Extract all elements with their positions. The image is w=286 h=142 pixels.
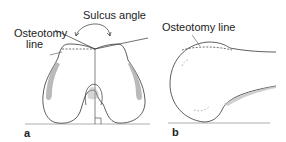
osteotomy-line-label-a-line2: line [26, 39, 43, 50]
osteotomy-line-label-b: Osteotomy line [162, 22, 235, 33]
panel-b-letter: b [172, 126, 179, 138]
panel-b-shading [224, 86, 276, 106]
panel-a-shading [46, 62, 142, 100]
sulcus-angle-label: Sulcus angle [83, 10, 146, 21]
panel-a-letter: a [24, 127, 30, 139]
panel-b-femur-outline [168, 35, 276, 123]
diagram-canvas [0, 0, 286, 142]
